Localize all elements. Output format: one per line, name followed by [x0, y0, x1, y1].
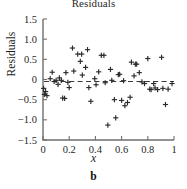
data-point — [85, 47, 90, 52]
data-point — [121, 78, 126, 83]
data-point — [63, 70, 68, 75]
svg-text:0.5: 0.5 — [24, 54, 37, 65]
data-point — [92, 76, 97, 81]
y-axis-label: Residuals — [5, 17, 17, 91]
residuals-figure: Residuals −1.5−1.0−0.500.51.01.500.20.40… — [0, 0, 187, 189]
data-point — [166, 87, 171, 92]
data-point — [160, 86, 165, 91]
data-point — [103, 80, 108, 85]
svg-text:−1.0: −1.0 — [18, 114, 37, 125]
svg-text:−0.5: −0.5 — [18, 94, 37, 105]
svg-text:1.0: 1.0 — [24, 34, 37, 45]
data-point — [86, 85, 91, 90]
data-point — [101, 53, 106, 58]
data-point — [137, 70, 142, 75]
data-point — [131, 73, 136, 78]
data-point — [122, 103, 127, 108]
data-point — [119, 98, 124, 103]
axis-ticks — [43, 19, 174, 140]
data-point — [112, 97, 117, 102]
data-point — [78, 59, 83, 64]
data-point — [50, 70, 55, 75]
data-point — [48, 76, 53, 81]
svg-text:0: 0 — [32, 74, 37, 85]
data-point — [128, 95, 133, 100]
data-point — [79, 51, 84, 56]
data-point — [159, 55, 164, 60]
data-point — [125, 100, 130, 105]
data-point — [163, 102, 168, 107]
data-point — [105, 122, 110, 127]
data-point — [65, 80, 70, 85]
data-point — [109, 78, 114, 83]
panel-caption: b — [0, 170, 187, 182]
data-point — [93, 82, 98, 87]
svg-text:1.5: 1.5 — [24, 14, 37, 25]
data-point — [67, 85, 72, 90]
axes — [43, 19, 174, 140]
data-point — [108, 67, 113, 72]
data-point — [83, 65, 88, 70]
data-point — [88, 99, 93, 104]
data-points — [41, 45, 175, 127]
data-point — [71, 68, 76, 73]
data-point — [80, 72, 85, 77]
x-axis-label: x — [0, 152, 187, 164]
svg-text:−1.5: −1.5 — [18, 135, 37, 146]
data-point — [145, 56, 150, 61]
data-point — [113, 115, 118, 120]
data-point — [96, 69, 101, 74]
data-point — [70, 45, 75, 50]
